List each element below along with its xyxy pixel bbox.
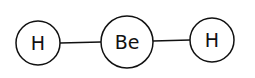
bond-be-h2	[153, 40, 190, 41]
atom-h-right: H	[190, 18, 234, 62]
molecule-diagram: H Be H	[0, 0, 255, 78]
atom-label: Be	[115, 31, 140, 53]
bond-h1-be	[60, 42, 101, 43]
atom-h-left: H	[16, 21, 60, 65]
atom-label: H	[205, 29, 219, 51]
atom-label: H	[31, 32, 45, 54]
atom-be: Be	[101, 16, 153, 68]
